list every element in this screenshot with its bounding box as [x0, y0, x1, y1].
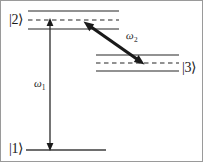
level-2-lines	[28, 11, 119, 29]
level-1-label: |1⟩	[9, 142, 23, 156]
diagram-canvas	[1, 1, 203, 162]
level-3-label: |3⟩	[182, 61, 196, 75]
omega2-label-symbol: ω	[126, 29, 134, 41]
omega1-label: ω1	[34, 78, 46, 93]
omega2-label-subscript: 2	[134, 35, 138, 44]
omega1-label-symbol: ω	[34, 77, 42, 89]
omega1-arrowhead-up	[47, 18, 54, 26]
omega2-label: ω2	[126, 30, 138, 46]
level-2-label: |2⟩	[9, 13, 23, 27]
energy-level-diagram: |2⟩ |3⟩ |1⟩ ω1 ω2	[0, 0, 203, 162]
omega1-arrow	[47, 18, 54, 151]
omega1-label-subscript: 1	[42, 83, 46, 92]
